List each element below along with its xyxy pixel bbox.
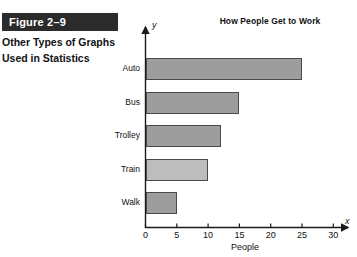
bar-chart: How People Get to Work y x AutoBusTrolle… [0,0,357,257]
bar-bus [146,92,240,114]
bar-walk [146,192,177,214]
x-tick-label: 15 [227,230,251,240]
x-axis-letter: x [345,216,350,226]
category-label-bus: Bus [88,97,140,107]
x-axis-title: People [145,242,345,252]
bar-train [146,159,209,181]
x-tick-label: 30 [321,230,345,240]
figure-page: Figure 2–9 Other Types of Graphs Used in… [0,0,357,257]
x-tick-label: 20 [259,230,283,240]
x-tick-label: 0 [134,230,158,240]
category-label-wrap: Trolley [88,130,140,140]
y-axis-letter: y [152,20,157,30]
category-label-wrap: Walk [88,197,140,207]
category-label-train: Train [88,164,140,174]
category-label-wrap: Train [88,164,140,174]
bar-auto [146,58,303,80]
x-tick-label: 25 [290,230,314,240]
category-label-auto: Auto [88,63,140,73]
category-label-walk: Walk [88,197,140,207]
category-label-wrap: Bus [88,97,140,107]
x-tick-label: 10 [196,230,220,240]
bar-trolley [146,125,221,147]
category-label-wrap: Auto [88,63,140,73]
category-label-trolley: Trolley [88,130,140,140]
x-tick-label: 5 [165,230,189,240]
